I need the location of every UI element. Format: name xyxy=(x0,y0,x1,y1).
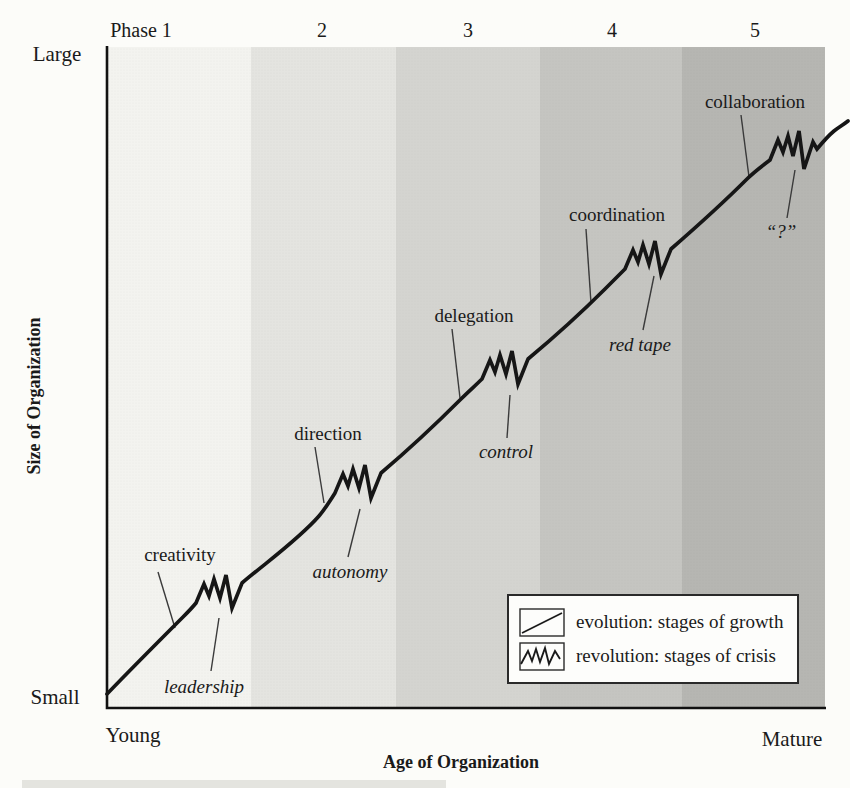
y-axis-title: Size of Organization xyxy=(25,318,45,475)
phase-label-4: 4 xyxy=(607,19,617,41)
x-axis-max-label: Mature xyxy=(762,728,823,751)
crisis-label-red-tape: red tape xyxy=(609,335,671,356)
crisis-label-question: “?” xyxy=(766,222,797,243)
stage-label-collaboration: collaboration xyxy=(705,92,805,113)
crisis-label-autonomy: autonomy xyxy=(313,562,388,583)
crisis-label-control: control xyxy=(479,442,533,463)
crisis-label-leadership: leadership xyxy=(164,677,244,698)
phase-label-5: 5 xyxy=(750,19,760,41)
stage-label-direction: direction xyxy=(294,424,362,445)
legend-row-evolution: evolution: stages of growth xyxy=(519,608,787,637)
stage-label-coordination: coordination xyxy=(569,205,665,226)
evolution-line-icon xyxy=(519,608,565,637)
legend-label-evolution: evolution: stages of growth xyxy=(576,611,783,633)
legend-box: evolution: stages of growth revolution: … xyxy=(507,594,799,684)
greiner-growth-diagram: Large Small Young Mature Size of Organiz… xyxy=(0,0,850,788)
legend-label-revolution: revolution: stages of crisis xyxy=(576,645,776,667)
y-axis-min-label: Small xyxy=(30,686,79,709)
phase-label-2: 2 xyxy=(317,19,327,41)
revolution-zigzag-icon xyxy=(519,642,565,671)
stage-label-creativity: creativity xyxy=(144,545,216,566)
legend-row-revolution: revolution: stages of crisis xyxy=(519,642,787,671)
phase-label-1: Phase 1 xyxy=(110,19,172,41)
cropped-caption-bar xyxy=(22,780,446,788)
y-axis-max-label: Large xyxy=(33,43,82,66)
phase-label-3: 3 xyxy=(463,19,473,41)
x-axis-title: Age of Organization xyxy=(383,753,539,773)
stage-label-delegation: delegation xyxy=(434,306,513,327)
x-axis-min-label: Young xyxy=(105,724,160,747)
